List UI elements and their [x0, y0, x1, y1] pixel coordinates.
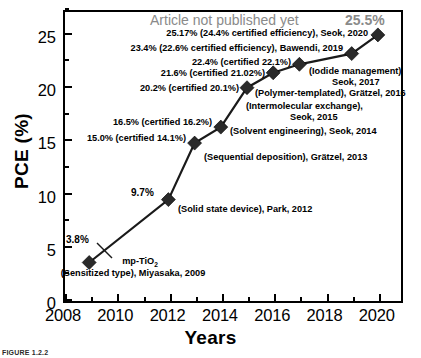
x-tick-2010: [117, 294, 119, 301]
annotation-2016: (Polymer-templated), Grätzel, 2016: [255, 89, 406, 99]
y-tick-20: [65, 86, 72, 88]
y-tick-minor-22p5: [65, 59, 69, 61]
y-axis-label-5: 5: [34, 240, 56, 259]
x-tick-2012: [170, 294, 172, 301]
annotation-2017-line1: (Iodide management): [309, 67, 401, 77]
y-tick-10: [65, 193, 72, 195]
point-label-2013: 15.0% (certified 14.1%): [87, 134, 186, 144]
x-axis-label-2014: 2014: [202, 306, 238, 325]
x-tick-minor-2015: [248, 297, 250, 301]
y-axis-title: PCE (%): [11, 91, 33, 211]
figure-caption: FIGURE 1.2.2: [2, 349, 48, 356]
annotation-2009-line2: (Sensitized type), Miyasaka, 2009: [61, 269, 206, 279]
y-tick-minor-17p5: [65, 113, 69, 115]
x-tick-2016: [274, 294, 276, 301]
x-axis-label-2012: 2012: [150, 306, 186, 325]
x-tick-minor-2019: [353, 297, 355, 301]
y-tick-minor-7p5: [65, 219, 69, 221]
y-axis-label-25: 25: [25, 27, 56, 46]
point-label-2017: 22.4% (certified 22.1%): [192, 58, 291, 68]
x-tick-2020: [379, 294, 381, 301]
x-axis-label-2016: 2016: [254, 306, 290, 325]
subscript-two: 2: [154, 261, 158, 268]
note-peak-value: 25.5%: [345, 12, 385, 28]
point-label-2014: 16.5% (certified 16.2%): [113, 118, 212, 128]
point-label-2020: 25.17% (24.4% certified efficiency), Seo…: [166, 29, 368, 39]
y-tick-minor-12p5: [65, 166, 69, 168]
x-axis-label-2018: 2018: [307, 306, 343, 325]
y-tick-5: [65, 246, 72, 248]
y-tick-0: [65, 299, 72, 301]
annotation-2009-line1: mp-TiO2: [122, 257, 158, 268]
note-article-not-published: Article not published yet: [150, 12, 299, 28]
x-tick-minor-2009: [91, 297, 93, 301]
x-tick-2014: [222, 294, 224, 301]
annotation-2014: (Solvent engineering), Seok, 2014: [230, 127, 377, 137]
x-tick-minor-2013: [196, 297, 198, 301]
point-label-2012: 9.7%: [131, 187, 154, 198]
annotation-2012: (Solid state device), Park, 2012: [178, 205, 312, 215]
annotation-2015-line1: (Intermolecular exchange),: [246, 102, 363, 112]
point-label-2019: 23.4% (22.6% certified efficiency), Bawe…: [131, 44, 343, 54]
annotation-2013: (Sequential deposition), Grätzel, 2013: [204, 153, 367, 163]
x-tick-minor-2011: [144, 297, 146, 301]
figure-container: 2008 2010 2012 2014 2016 2018 2020 0 5 1…: [0, 0, 421, 358]
point-label-2016: 21.6% (certified 21.02%): [161, 69, 265, 79]
y-axis-label-0: 0: [34, 294, 56, 313]
x-axis-label-2020: 2020: [359, 306, 395, 325]
point-label-2009: 3.8%: [66, 234, 89, 245]
x-axis-title: Years: [0, 327, 421, 349]
x-tick-minor-2017: [300, 297, 302, 301]
y-tick-15: [65, 139, 72, 141]
y-tick-minor-27p5: [65, 8, 69, 10]
annotation-2017-line2: Seok, 2017: [332, 78, 380, 88]
x-axis-label-2010: 2010: [97, 306, 133, 325]
annotation-2015-line2: Seok, 2015: [290, 113, 338, 123]
x-tick-2018: [327, 294, 329, 301]
y-tick-25: [65, 33, 72, 35]
point-label-2015: 20.2% (certified 20.1%): [140, 84, 239, 94]
